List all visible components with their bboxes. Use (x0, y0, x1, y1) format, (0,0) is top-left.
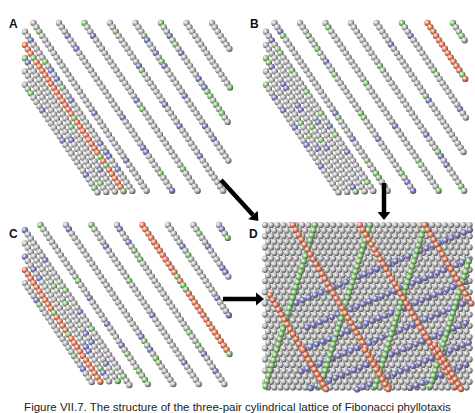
figure-canvas (0, 0, 475, 413)
panel-label-b: B (250, 17, 259, 31)
figure-caption: Figure VII.7. The structure of the three… (0, 401, 475, 413)
panel-label-a: A (9, 17, 18, 31)
panel-label-c: C (9, 227, 18, 241)
panel-label-d: D (249, 227, 258, 241)
